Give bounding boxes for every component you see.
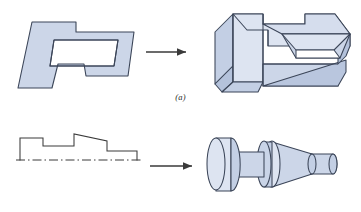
caption-panel-a: (a) [0,92,361,102]
solid-b-large-cylinder-end [207,138,225,190]
solid-a-pocket-floor [296,50,340,58]
profile-a-outline [18,22,134,88]
solid-b-large-cylinder-right-shoulder [231,138,240,191]
solid-3d-extrusion-a [215,14,350,92]
figure-container: (a) [0,0,361,212]
transform-arrow-b [150,162,192,170]
profile-a-window [50,40,118,66]
profile-b-outline [20,134,137,160]
solid-a-top-face-right [263,14,350,34]
arrow-head [183,162,192,170]
solid-b-cone-small-end [308,154,316,174]
panel-b-graphic [0,106,361,212]
transform-arrow-a [146,48,186,56]
solid-b-small-cylinder-end [329,154,337,174]
panel-a-extrusion: (a) [0,0,361,106]
panel-a-graphic [0,0,361,106]
profile-2d-shape-b [16,134,142,160]
profile-2d-shape-a [18,22,134,88]
arrow-head [177,48,186,56]
solid-3d-revolution-b [207,138,337,191]
panel-b-revolution: (b) [0,106,361,212]
